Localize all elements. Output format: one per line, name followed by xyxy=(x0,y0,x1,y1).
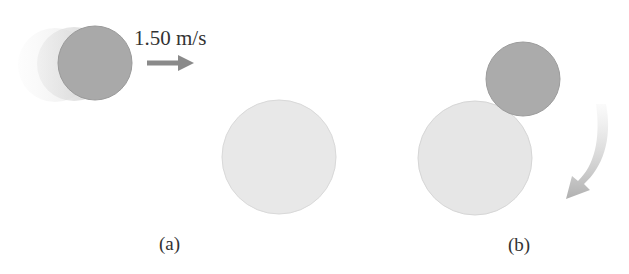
velocity-label: 1.50 m/s xyxy=(134,26,206,51)
panel-label-b: (b) xyxy=(508,234,530,256)
velocity-arrow-icon xyxy=(147,55,194,71)
panel-label-a: (a) xyxy=(159,233,180,255)
rotation-arrow-icon xyxy=(566,104,608,199)
collision-diagram: 1.50 m/s (a) (b) xyxy=(0,0,629,274)
panel-a xyxy=(18,26,336,214)
diagram-graphics xyxy=(0,0,629,274)
small-ball-a xyxy=(58,26,132,100)
large-ball-a xyxy=(222,100,336,214)
small-ball-b xyxy=(486,42,560,116)
large-ball-b xyxy=(418,101,532,215)
panel-b xyxy=(418,42,608,215)
